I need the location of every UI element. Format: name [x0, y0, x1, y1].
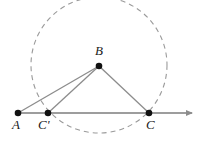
point-label-B: B: [95, 44, 103, 57]
point-label-C-prime: C': [38, 118, 49, 131]
geometry-canvas: [0, 0, 204, 141]
point-B: [96, 63, 103, 70]
point-C-prime: [45, 110, 52, 117]
point-C: [146, 110, 153, 117]
point-label-C: C: [146, 118, 155, 131]
segment-B-Cp: [48, 66, 99, 113]
point-A: [15, 110, 22, 117]
point-label-A: A: [12, 118, 20, 131]
segment-B-C: [99, 66, 149, 113]
segment-B-A: [18, 66, 99, 113]
geometry-figure: A C' C B: [0, 0, 204, 141]
